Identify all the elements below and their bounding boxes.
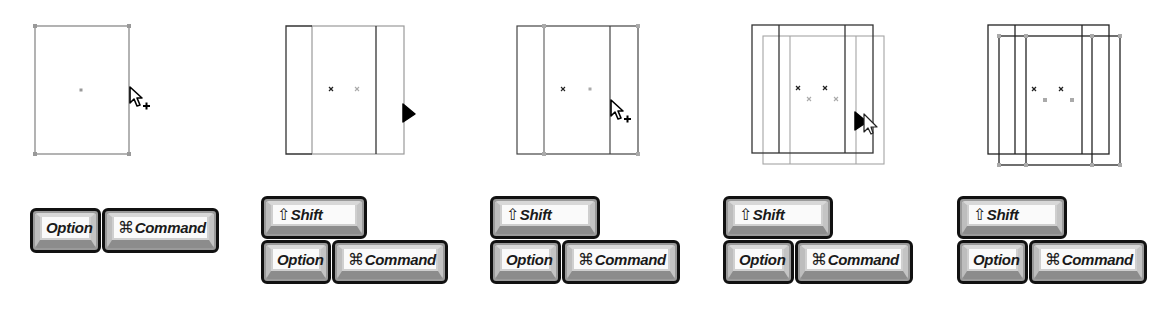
shift-key: ⇧Shift bbox=[723, 196, 833, 239]
arrow-filled-cursor-icon bbox=[403, 104, 415, 122]
panel-step-4 bbox=[752, 25, 884, 164]
arrow-outline-cursor-icon bbox=[864, 114, 877, 134]
command-key: ⌘Command bbox=[332, 240, 448, 284]
ghost-group bbox=[763, 36, 884, 164]
shift-key-label: Shift bbox=[520, 206, 552, 223]
command-symbol-icon: ⌘ bbox=[811, 250, 827, 269]
command-symbol-icon: ⌘ bbox=[348, 250, 364, 269]
option-key: Option bbox=[30, 208, 101, 253]
center-mark-original bbox=[561, 87, 565, 91]
arrow-plus-cursor-icon bbox=[130, 87, 150, 110]
option-key: Option bbox=[957, 240, 1028, 284]
shift-arrow-icon: ⇧ bbox=[506, 205, 519, 224]
option-key-label: Option bbox=[973, 251, 1020, 268]
shift-key: ⇧Shift bbox=[490, 196, 600, 239]
command-symbol-icon: ⌘ bbox=[578, 250, 594, 269]
original-group bbox=[752, 25, 873, 153]
command-key-label: Command bbox=[365, 251, 436, 268]
panel-step-2 bbox=[286, 26, 415, 154]
command-symbol-icon: ⌘ bbox=[1045, 250, 1061, 269]
command-key-label: Command bbox=[1062, 251, 1133, 268]
option-key-label: Option bbox=[739, 251, 786, 268]
original-rectangle bbox=[286, 26, 312, 154]
command-key-label: Command bbox=[595, 251, 666, 268]
option-key-label: Option bbox=[506, 251, 553, 268]
shift-key-label: Shift bbox=[987, 206, 1019, 223]
shift-arrow-icon: ⇧ bbox=[277, 205, 290, 224]
option-key-label: Option bbox=[46, 219, 93, 236]
command-key: ⌘Command bbox=[1029, 240, 1147, 284]
option-key: Option bbox=[723, 240, 794, 284]
shift-key: ⇧Shift bbox=[261, 196, 367, 239]
command-key-label: Command bbox=[828, 251, 899, 268]
option-key: Option bbox=[261, 240, 331, 284]
center-mark-original bbox=[329, 87, 333, 91]
selection-handles bbox=[997, 34, 1122, 167]
center-point-copy bbox=[589, 88, 592, 91]
command-key: ⌘Command bbox=[562, 240, 680, 284]
panel-step-5 bbox=[988, 25, 1122, 167]
outer-rectangle bbox=[517, 26, 638, 154]
original-group bbox=[988, 25, 1109, 154]
command-key: ⌘Command bbox=[795, 240, 913, 284]
arrow-plus-cursor-icon bbox=[611, 100, 631, 123]
shift-key-label: Shift bbox=[753, 206, 785, 223]
shift-arrow-icon: ⇧ bbox=[739, 205, 752, 224]
shift-key-label: Shift bbox=[291, 206, 323, 223]
shift-arrow-icon: ⇧ bbox=[973, 205, 986, 224]
command-key: ⌘Command bbox=[102, 208, 219, 253]
option-key-label: Option bbox=[277, 251, 324, 268]
panel-step-3 bbox=[517, 24, 640, 156]
panel-step-1 bbox=[33, 24, 150, 156]
center-marks-original bbox=[1032, 87, 1063, 91]
center-points-copy bbox=[1043, 98, 1074, 102]
command-symbol-icon: ⌘ bbox=[118, 218, 134, 237]
center-point bbox=[80, 89, 83, 92]
center-marks-ghost bbox=[807, 97, 838, 101]
shift-key: ⇧Shift bbox=[957, 196, 1067, 239]
center-mark-ghost bbox=[355, 87, 359, 91]
center-marks-original bbox=[796, 86, 827, 90]
option-key: Option bbox=[490, 240, 561, 284]
command-key-label: Command bbox=[135, 219, 206, 236]
copy-group bbox=[999, 36, 1120, 165]
